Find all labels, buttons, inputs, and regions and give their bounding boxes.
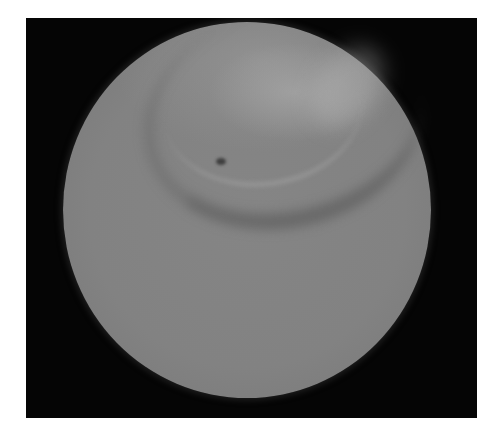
- circular-field-of-view: [63, 22, 431, 398]
- dark-pit: [216, 158, 226, 165]
- image-frame: [26, 18, 477, 418]
